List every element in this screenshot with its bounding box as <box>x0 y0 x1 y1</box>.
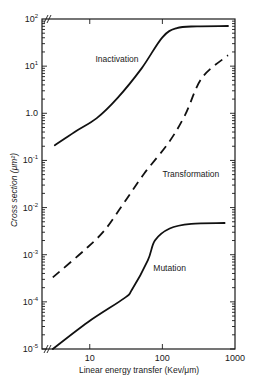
y-tick-label: 10-2 <box>23 202 39 213</box>
x-tick-label: 10 <box>85 353 95 363</box>
ticks <box>42 19 235 349</box>
y-tick-label: 10-5 <box>23 343 39 354</box>
y-tick-label: 10-4 <box>23 296 39 307</box>
curve-labels: InactivationTransformationMutation <box>96 54 220 273</box>
x-tick-label: 1000 <box>225 353 245 363</box>
inactivation-label: Inactivation <box>96 54 139 64</box>
y-tick-label: 1.0 <box>25 108 38 118</box>
y-axis-label: Cross section (μm²) <box>9 153 19 227</box>
axes <box>42 15 235 353</box>
y-tick-labels: 1021011.010-110-210-310-410-5 <box>23 13 39 354</box>
y-tick-label: 101 <box>25 60 39 71</box>
x-tick-label: 100 <box>155 353 170 363</box>
y-tick-label: 10-3 <box>23 249 39 260</box>
y-tick-label: 102 <box>25 13 39 24</box>
plot-frame <box>42 19 235 349</box>
transformation-curve <box>53 55 228 277</box>
mutation-curve <box>53 223 225 349</box>
x-tick-labels: 101001000 <box>85 353 245 363</box>
curves <box>53 26 228 349</box>
inactivation-curve <box>55 26 228 145</box>
y-tick-label: 10-1 <box>23 154 39 165</box>
transformation-label: Transformation <box>162 169 219 179</box>
mutation-label: Mutation <box>153 263 186 273</box>
chart: 1021011.010-110-210-310-410-5 101001000 … <box>0 0 257 386</box>
x-axis-label: Linear energy transfer (Kev/μm) <box>79 365 199 375</box>
